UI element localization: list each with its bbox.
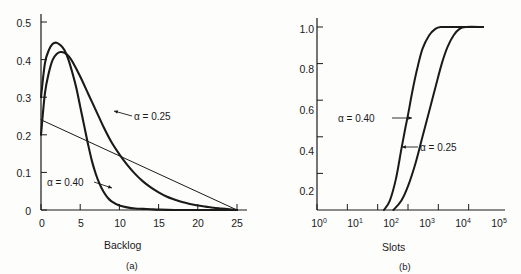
panel-b-xtick-1e0: 100	[304, 218, 334, 229]
panel-b-plot	[262, 0, 521, 274]
panel-b-alpha-025-label: α = 0.25	[420, 143, 457, 153]
panel-b-xtick-1e5: 105	[484, 218, 514, 229]
panel-a-ytick-0-4: 0.4	[5, 56, 31, 67]
panel-b-alpha-025-arrow	[402, 145, 418, 149]
panel-b-ytick-0-6: 0.6	[290, 105, 314, 116]
figure-container: 0 0.1 0.2 0.3 0.4 0.5 0 5 10 15 20 25 Ba…	[0, 0, 521, 274]
panel-b-ytick-0-4: 0.4	[290, 146, 314, 157]
panel-a-alpha-040-label: α = 0.40	[47, 178, 84, 188]
panel-b-xtick-1e1-mantissa: 10	[347, 217, 359, 229]
panel-a-plot	[0, 0, 262, 274]
panel-b-xaxis-title: Slots	[382, 242, 405, 253]
panel-b-xtick-1e2-exponent: 2	[395, 217, 399, 224]
panel-a-ytick-0-2: 0.2	[5, 131, 31, 142]
panel-a-alpha-025-label: α = 0.25	[134, 112, 171, 122]
panel-a-xtick-0: 0	[27, 218, 57, 229]
panel-a-xtick-25: 25	[222, 218, 252, 229]
panel-b-ytick-0-2: 0.2	[290, 186, 314, 197]
panel-a-ytick-0: 0	[5, 206, 31, 217]
panel-a-ytick-0-1: 0.1	[5, 168, 31, 179]
panel-a-xtick-5: 5	[66, 218, 96, 229]
panel-a-caption: (a)	[126, 261, 138, 271]
panel-b-xtick-1e4-mantissa: 10	[455, 217, 467, 229]
panel-b-xtick-1e1: 101	[340, 218, 370, 229]
panel-b-xtick-1e4: 104	[448, 218, 478, 229]
panel-a-xtick-20: 20	[183, 218, 213, 229]
panel-a-xtick-10: 10	[105, 218, 135, 229]
panel-b-xtick-1e5-mantissa: 10	[491, 217, 503, 229]
panel-b-xtick-1e0-exponent: 0	[323, 217, 327, 224]
panel-a-ytick-0-3: 0.3	[5, 93, 31, 104]
panel-b-xtick-1e0-mantissa: 10	[311, 217, 323, 229]
panel-a-ytick-0-5: 0.5	[5, 18, 31, 29]
panel-a-xtick-15: 15	[144, 218, 174, 229]
panel-b-xtick-1e5-exponent: 5	[503, 217, 507, 224]
panel-a-alpha-025-arrow	[114, 110, 132, 116]
panel-b-alpha-040-label: α = 0.40	[338, 114, 375, 124]
panel-a-xaxis-title: Backlog	[104, 240, 141, 251]
panel-b-alpha-040-arrow	[392, 116, 412, 120]
panel-b-xtick-1e3: 103	[412, 218, 442, 229]
panel-b-caption: (b)	[399, 262, 411, 272]
panel-a-alpha-040-arrow	[94, 182, 112, 189]
panel-b-xtick-1e3-mantissa: 10	[419, 217, 431, 229]
panel-b-xtick-1e3-exponent: 3	[431, 217, 435, 224]
panel-b-ytick-0-8: 0.8	[290, 64, 314, 75]
panel-b: Probability of unstable state 0.2 0.4 0.…	[262, 0, 521, 274]
panel-a: 0 0.1 0.2 0.3 0.4 0.5 0 5 10 15 20 25 Ba…	[0, 0, 262, 274]
panel-b-xtick-1e2-mantissa: 10	[383, 217, 395, 229]
panel-b-xtick-1e4-exponent: 4	[467, 217, 471, 224]
panel-b-ytick-1-0: 1.0	[290, 24, 314, 35]
panel-a-curve-2	[41, 120, 237, 210]
panel-b-xtick-1e2: 102	[376, 218, 406, 229]
panel-b-xtick-1e1-exponent: 1	[359, 217, 363, 224]
